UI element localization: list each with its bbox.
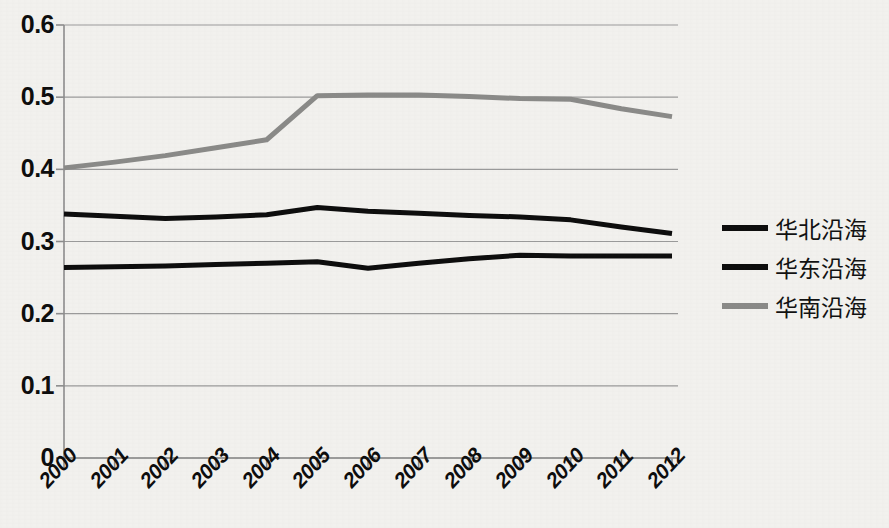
- y-axis-tick-label: 0.2: [0, 299, 54, 328]
- chart-legend: 华北沿海华东沿海华南沿海: [722, 208, 889, 325]
- line-chart: 00.10.20.30.40.50.6 20002001200220032004…: [0, 0, 889, 528]
- legend-label: 华南沿海: [775, 289, 867, 323]
- series-line-2: [64, 255, 672, 268]
- series-line-3: [64, 95, 672, 168]
- y-axis-tick-label: 0.1: [0, 371, 54, 400]
- series-line-1: [64, 208, 672, 234]
- legend-label: 华北沿海: [775, 211, 867, 245]
- legend-item[interactable]: 华北沿海: [722, 208, 889, 247]
- legend-item[interactable]: 华南沿海: [722, 286, 889, 325]
- y-axis-tick-label: 0.5: [0, 82, 54, 111]
- legend-item[interactable]: 华东沿海: [722, 247, 889, 286]
- y-axis-tick-label: 0.3: [0, 227, 54, 256]
- legend-label: 华东沿海: [775, 250, 867, 284]
- legend-swatch-icon: [722, 225, 768, 231]
- y-axis-tick-label: 0.4: [0, 154, 54, 183]
- legend-swatch-icon: [722, 264, 768, 270]
- legend-swatch-icon: [722, 303, 768, 309]
- y-axis-tick-label: 0.6: [0, 10, 54, 39]
